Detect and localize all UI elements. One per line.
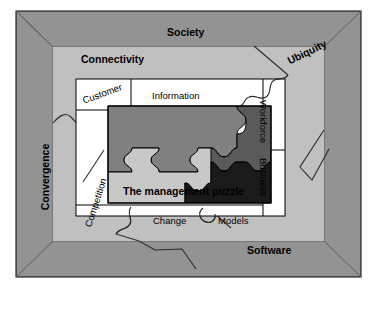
management-puzzle [108,106,271,203]
diagram-artwork [0,0,377,313]
society-band-strip [16,11,361,47]
diagram-canvas: Society Connectivity Ubiquity Convergenc… [0,0,377,313]
